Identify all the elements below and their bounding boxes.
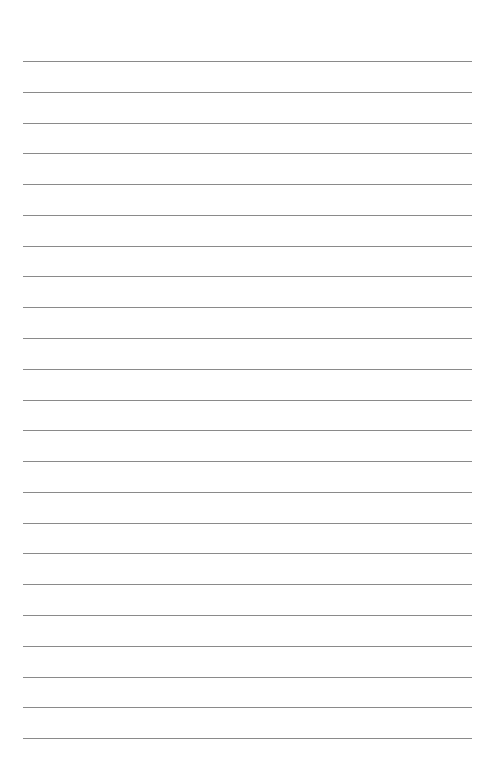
ruled-line [23,338,472,339]
ruled-line [23,430,472,431]
ruled-line [23,61,472,62]
ruled-line [23,707,472,708]
ruled-line [23,738,472,739]
ruled-line [23,246,472,247]
ruled-line [23,369,472,370]
ruled-line [23,400,472,401]
ruled-line [23,646,472,647]
ruled-line [23,123,472,124]
ruled-line [23,276,472,277]
ruled-line [23,523,472,524]
ruled-line [23,492,472,493]
ruled-line [23,677,472,678]
ruled-line [23,92,472,93]
ruled-line [23,615,472,616]
ruled-line [23,153,472,154]
ruled-line [23,553,472,554]
ruled-line [23,184,472,185]
ruled-line [23,215,472,216]
ruled-line [23,461,472,462]
ruled-line [23,584,472,585]
ruled-line [23,307,472,308]
